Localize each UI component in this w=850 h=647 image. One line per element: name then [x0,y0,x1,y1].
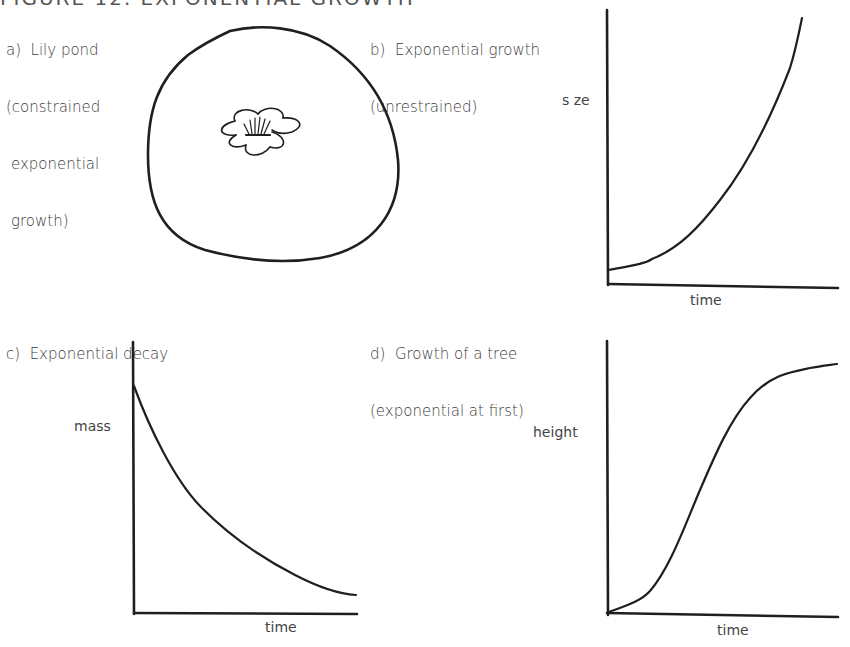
chart-d-x-axis [607,613,838,617]
chart-d-curve [609,364,837,612]
figure-drawings [0,0,850,647]
chart-c-curve [134,386,356,595]
chart-b-exponential-growth [607,10,838,288]
chart-b-curve [608,18,802,270]
chart-c-x-axis [134,613,357,614]
chart-c-exponential-decay [133,342,357,614]
chart-b-y-axis [607,10,608,285]
lily-pond-illustration [148,27,398,261]
chart-d-tree-growth [607,341,838,617]
lily-flower-icon [222,108,300,155]
pond-outline [148,27,398,261]
chart-c-y-axis [133,342,134,614]
chart-b-x-axis [608,284,838,288]
chart-d-y-axis [607,341,608,615]
